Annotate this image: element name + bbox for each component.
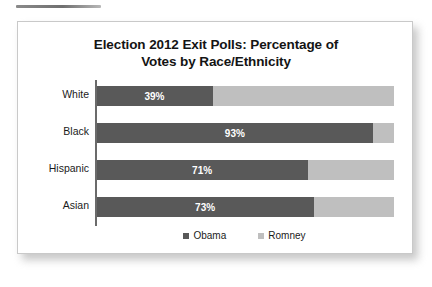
- bar-segment-romney[interactable]: [308, 160, 394, 180]
- chart-title-line-1: Election 2012 Exit Polls: Percentage of: [94, 37, 338, 52]
- chart-title: Election 2012 Exit Polls: Percentage of …: [48, 36, 384, 70]
- stacked-bar-black: 93%: [97, 123, 395, 143]
- legend-swatch-icon: [258, 233, 264, 239]
- stacked-bar-hispanic: 71%: [97, 160, 395, 180]
- bar-value-label: 73%: [97, 202, 314, 213]
- category-label-asian: Asian: [9, 199, 89, 211]
- chart-legend: Obama Romney: [95, 230, 394, 241]
- legend-swatch-icon: [183, 233, 189, 239]
- bar-chart: Election 2012 Exit Polls: Percentage of …: [18, 22, 412, 253]
- chart-card: Election 2012 Exit Polls: Percentage of …: [17, 21, 413, 254]
- category-label-white: White: [9, 88, 89, 100]
- category-label-hispanic: Hispanic: [9, 162, 89, 174]
- bar-segment-romney[interactable]: [314, 197, 394, 217]
- plot-area: White 39% Black 93%: [95, 80, 394, 226]
- bar-row: White 39%: [95, 86, 394, 106]
- bar-value-label: 71%: [97, 165, 308, 176]
- bar-segment-romney[interactable]: [373, 123, 394, 143]
- legend-label-romney: Romney: [268, 230, 305, 241]
- bar-segment-obama[interactable]: 39%: [97, 86, 213, 106]
- bar-segment-romney[interactable]: [213, 86, 394, 106]
- horizontal-rule-icon: [16, 5, 101, 8]
- bar-row: Hispanic 71%: [95, 160, 394, 180]
- legend-label-obama: Obama: [193, 230, 226, 241]
- bar-segment-obama[interactable]: 71%: [97, 160, 308, 180]
- stacked-bar-white: 39%: [97, 86, 395, 106]
- legend-item-obama[interactable]: Obama: [183, 230, 226, 241]
- bar-value-label: 93%: [97, 128, 374, 139]
- chart-title-line-2: Votes by Race/Ethnicity: [48, 53, 384, 70]
- stacked-bar-asian: 73%: [97, 197, 395, 217]
- bar-value-label: 39%: [97, 91, 213, 102]
- bar-segment-obama[interactable]: 93%: [97, 123, 374, 143]
- bar-row: Black 93%: [95, 123, 394, 143]
- bar-segment-obama[interactable]: 73%: [97, 197, 314, 217]
- bar-row: Asian 73%: [95, 197, 394, 217]
- page-root: Election 2012 Exit Polls: Percentage of …: [0, 0, 432, 287]
- category-label-black: Black: [9, 125, 89, 137]
- legend-item-romney[interactable]: Romney: [258, 230, 305, 241]
